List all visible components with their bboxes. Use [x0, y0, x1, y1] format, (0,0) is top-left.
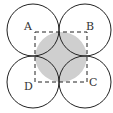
label-b: B — [86, 20, 94, 33]
circle-d — [7, 56, 59, 108]
label-c: C — [89, 76, 97, 89]
label-d: D — [24, 80, 33, 93]
label-a: A — [23, 20, 33, 33]
circle-a — [7, 4, 59, 56]
diagram: A B C D — [0, 0, 113, 113]
